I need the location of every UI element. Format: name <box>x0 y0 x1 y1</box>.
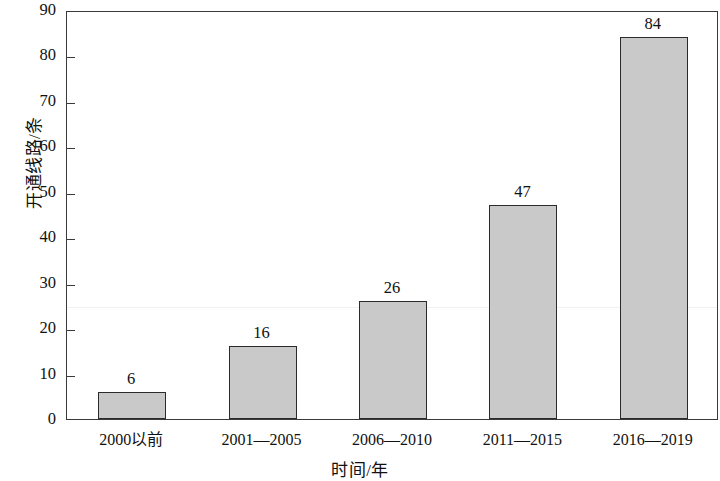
bar-value-label: 84 <box>608 15 698 32</box>
y-axis-tick-label: 20 <box>22 320 56 336</box>
bar <box>620 37 688 419</box>
y-axis-tick-mark <box>67 194 75 195</box>
y-axis-tick-mark <box>67 376 75 377</box>
y-axis-tick-label: 60 <box>22 138 56 154</box>
bar <box>98 392 166 419</box>
y-axis-tick-label: 0 <box>22 411 56 427</box>
y-axis-tick-mark <box>67 103 75 104</box>
y-axis-tick-mark <box>67 57 75 58</box>
bar-value-label: 26 <box>347 279 437 296</box>
y-axis-tick-label: 70 <box>22 93 56 109</box>
bar <box>229 346 297 419</box>
bar-chart: 开通线路/条 0102030405060708090 616264784 200… <box>0 0 720 481</box>
y-axis-tick-mark <box>67 285 75 286</box>
y-axis-tick-label: 80 <box>22 47 56 63</box>
bar-value-label: 47 <box>477 183 567 200</box>
bar <box>359 301 427 419</box>
x-axis-tick-label: 2016—2019 <box>573 431 720 449</box>
y-axis-tick-mark <box>67 148 75 149</box>
y-axis-tick-label: 40 <box>22 229 56 245</box>
plot-area <box>66 11 718 420</box>
y-axis-tick-mark <box>67 239 75 240</box>
bar-value-label: 16 <box>217 324 307 341</box>
bar <box>489 205 557 419</box>
y-axis-tick-label: 30 <box>22 275 56 291</box>
x-axis-title: 时间/年 <box>0 456 720 481</box>
y-axis-tick-label: 10 <box>22 366 56 382</box>
y-axis-tick-label: 90 <box>22 2 56 18</box>
y-axis-tick-label: 50 <box>22 184 56 200</box>
bar-value-label: 6 <box>86 370 176 387</box>
y-axis-tick-mark <box>67 330 75 331</box>
